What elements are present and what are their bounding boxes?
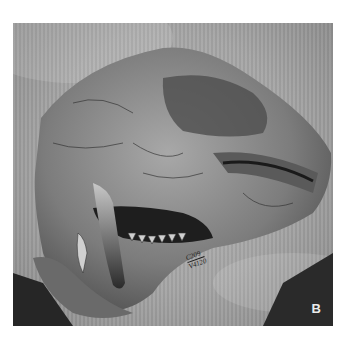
photograph: C209 V4120 B [13, 23, 333, 326]
panel-label: B [312, 301, 321, 316]
skull-image [13, 23, 333, 326]
